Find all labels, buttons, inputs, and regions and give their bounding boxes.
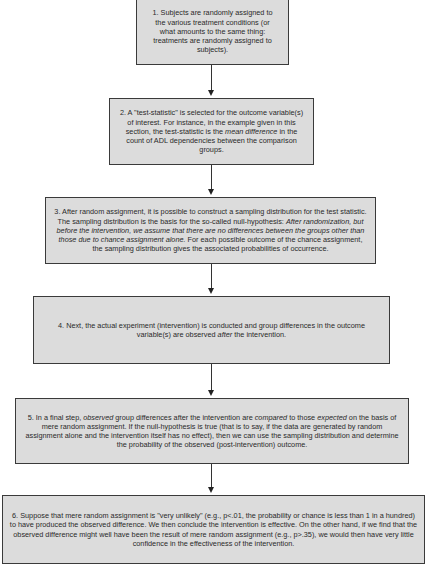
body-text: to those (287, 413, 317, 422)
body-text: the intervention. (232, 330, 286, 339)
body-text: 4. Next, the actual experiment (interven… (58, 321, 365, 339)
arrow-1-2-head-icon (208, 90, 214, 96)
body-text: 1. Subjects are randomly assigned to the… (152, 8, 272, 54)
step-5-text: 5. In a final step, observed group diffe… (24, 413, 400, 450)
emphasis-text: mean difference (225, 127, 277, 136)
arrow-4-5-head-icon (208, 390, 214, 396)
step-2-text: 2. A "test-statistic" is selected for th… (118, 108, 305, 154)
step-3-box: 3. After random assignment, it is possib… (45, 197, 376, 264)
arrow-1-2-line (211, 65, 212, 91)
arrow-5-6-line (211, 464, 212, 488)
arrow-5-6-head-icon (208, 487, 214, 493)
step-4-box: 4. Next, the actual experiment (interven… (33, 296, 390, 364)
step-6-text: 6. Suppose that mere random assignment i… (9, 511, 418, 548)
step-6-box: 6. Suppose that mere random assignment i… (2, 495, 425, 564)
body-text: group differences after the intervention… (113, 413, 254, 422)
emphasis-text: expected (317, 413, 347, 422)
emphasis-text: compared (255, 413, 287, 422)
arrow-2-3-head-icon (208, 189, 214, 195)
emphasis-text: observed (83, 413, 113, 422)
step-1-text: 1. Subjects are randomly assigned to the… (147, 8, 278, 54)
body-text: 5. In a final step, (28, 413, 84, 422)
arrow-3-4-head-icon (208, 288, 214, 294)
arrow-2-3-line (211, 165, 212, 190)
step-3-text: 3. After random assignment, it is possib… (54, 207, 367, 253)
step-4-text: 4. Next, the actual experiment (interven… (44, 321, 379, 339)
body-text: 6. Suppose that mere random assignment i… (10, 511, 417, 548)
step-5-box: 5. In a final step, observed group diffe… (15, 398, 409, 464)
step-2-box: 2. A "test-statistic" is selected for th… (109, 98, 314, 165)
arrow-4-5-line (211, 364, 212, 391)
emphasis-text: after (218, 330, 233, 339)
arrow-3-4-line (211, 264, 212, 289)
step-1-box: 1. Subjects are randomly assigned to the… (136, 0, 289, 65)
